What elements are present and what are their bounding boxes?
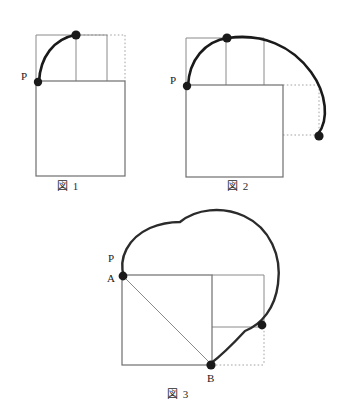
figure-3: P A B: [85, 198, 295, 398]
figure-3-marker-a: [119, 272, 128, 281]
figure-2-square: [186, 85, 283, 177]
figure-2-label-p: P: [170, 74, 176, 86]
figure-1-marker-start: [34, 78, 42, 86]
figure-2-caption: 図 2: [227, 177, 249, 193]
figure-1-label-p: P: [21, 70, 27, 82]
figure-3-marker-b: [206, 360, 215, 369]
figure-2: P: [160, 0, 354, 195]
figure-1-dotted-guides: [76, 35, 125, 81]
figure-3-label-a: A: [107, 272, 115, 284]
figure-3-arc-path: [122, 210, 278, 364]
figure-2-marker-start: [183, 82, 191, 90]
figure-2-canvas: P: [160, 0, 354, 195]
figure-1: P: [0, 0, 160, 195]
figure-1-upper-box: [36, 35, 107, 81]
figure-2-dotted-guides: [283, 85, 319, 135]
figure-1-canvas: P: [0, 0, 160, 195]
figure-1-arc-path: [39, 35, 75, 82]
figure-3-dotted-guides: [212, 327, 264, 365]
figure-3-right-box: [212, 275, 264, 327]
figure-sheet: P: [0, 0, 354, 418]
figure-1-square: [36, 81, 125, 176]
figure-3-caption: 図 3: [167, 385, 189, 401]
figure-2-upper-box: [186, 38, 264, 85]
figure-1-caption: 図 1: [57, 177, 79, 193]
figure-3-canvas: P A B: [85, 198, 295, 398]
figure-1-marker-end: [71, 30, 80, 39]
figure-3-diagonal-ab: [123, 276, 211, 364]
figure-2-marker-end: [314, 131, 323, 140]
figure-3-label-b: B: [207, 372, 214, 384]
figure-2-marker-mid: [222, 33, 231, 42]
figure-3-marker-right: [258, 321, 267, 330]
figure-3-label-p: P: [108, 252, 114, 264]
